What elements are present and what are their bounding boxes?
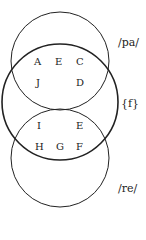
element-e-top: E bbox=[55, 57, 62, 67]
element-i: I bbox=[37, 121, 41, 131]
set-label-pa: /pa/ bbox=[118, 37, 139, 48]
element-h: H bbox=[35, 142, 44, 152]
set-label-f: {f} bbox=[121, 98, 139, 109]
element-e-bottom: E bbox=[76, 121, 83, 131]
element-c: C bbox=[76, 57, 84, 67]
set-label-re: /re/ bbox=[118, 183, 137, 194]
element-a: A bbox=[34, 57, 41, 67]
element-d: D bbox=[76, 78, 84, 88]
element-f: F bbox=[76, 142, 83, 152]
element-g: G bbox=[56, 142, 64, 152]
circle-re bbox=[11, 109, 109, 207]
element-j: J bbox=[36, 78, 40, 88]
